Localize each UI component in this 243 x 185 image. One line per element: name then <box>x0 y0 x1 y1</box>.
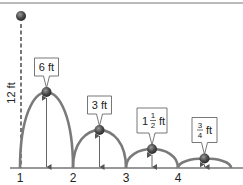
initial-ball <box>16 11 26 21</box>
label-unit: ft <box>159 115 165 127</box>
ground-tick-label: 1 <box>17 171 24 185</box>
label-unit: ft <box>206 124 212 136</box>
label-numerator: 3 <box>198 121 203 130</box>
ground-tick-label: 2 <box>70 171 77 185</box>
bounce-balls <box>42 87 210 164</box>
bounce-ball <box>95 125 105 135</box>
label-numerator: 1 <box>151 111 156 120</box>
height-label: 34ft <box>192 118 217 155</box>
height-label: 112ft <box>137 108 167 145</box>
bounce-ball <box>147 144 157 154</box>
bounce-ball <box>200 154 210 164</box>
height-label: 3 ft <box>88 96 112 126</box>
ground-ticks: 1234 <box>17 171 182 185</box>
height-label: 6 ft <box>35 58 59 88</box>
ground-tick-label: 4 <box>175 171 182 185</box>
label-callout-box <box>192 118 217 155</box>
drop-height-label: 12 ft <box>5 82 17 103</box>
ground-tick-label: 3 <box>123 171 130 185</box>
label-denominator: 4 <box>198 131 203 140</box>
label-denominator: 2 <box>151 121 156 130</box>
bounce-ball <box>42 87 52 97</box>
label-text: 3 ft <box>92 99 107 111</box>
label-text: 6 ft <box>39 61 54 73</box>
bouncing-ball-diagram: 12 ft 6 ft3 ft112ft34ft 1234 <box>0 0 243 185</box>
label-integer: 1 <box>142 115 148 127</box>
